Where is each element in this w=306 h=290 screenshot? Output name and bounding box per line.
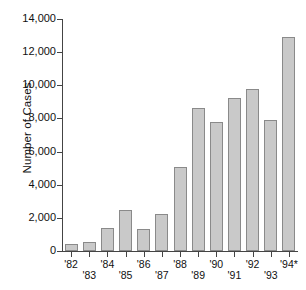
x-axis-tick	[234, 252, 235, 257]
y-axis-tick-label: 10,000	[4, 78, 56, 90]
x-axis-tick	[144, 252, 145, 257]
bar	[137, 229, 150, 251]
y-axis-tick	[57, 218, 62, 219]
y-axis-tick-label: 4,000	[4, 178, 56, 190]
y-axis-tick-label: 2,000	[4, 211, 56, 223]
plot-area	[62, 19, 298, 251]
y-axis-tick-label: 6,000	[4, 145, 56, 157]
bar	[246, 89, 259, 251]
bar	[83, 242, 96, 251]
y-axis-tick	[57, 52, 62, 53]
x-axis-tick	[126, 252, 127, 257]
x-axis-tick	[253, 252, 254, 257]
x-axis-ticks-and-labels: '82'83'84'85'86'87'88'89'90'91'92'93'94*	[62, 252, 298, 290]
x-axis-tick	[216, 252, 217, 257]
x-axis-tick	[198, 252, 199, 257]
x-axis-tick	[89, 252, 90, 257]
x-axis-tick-label: '87	[149, 269, 175, 281]
x-axis-tick	[180, 252, 181, 257]
y-axis-tick-label: 0	[4, 244, 56, 256]
x-axis-tick	[162, 252, 163, 257]
bar	[119, 210, 132, 251]
y-axis-tick-labels: 02,0004,0006,0008,00010,00012,00014,000	[0, 0, 56, 290]
y-axis-tick-label: 12,000	[4, 45, 56, 57]
x-axis-tick-label: '94*	[276, 258, 302, 270]
y-axis-tick	[57, 185, 62, 186]
bar	[228, 98, 241, 251]
x-axis-tick	[71, 252, 72, 257]
bar	[192, 108, 205, 251]
bar	[155, 214, 168, 251]
x-axis-tick	[107, 252, 108, 257]
x-axis-tick	[271, 252, 272, 257]
x-axis-tick-label: '89	[185, 269, 211, 281]
y-axis-tick	[57, 118, 62, 119]
bar-chart: Number of Cases 02,0004,0006,0008,00010,…	[0, 0, 306, 290]
x-axis-tick-label: '91	[221, 269, 247, 281]
bar	[101, 228, 114, 251]
x-axis-tick-label: '83	[76, 269, 102, 281]
y-axis-tick	[57, 19, 62, 20]
y-axis-tick	[57, 85, 62, 86]
x-axis-tick-label: '93	[258, 269, 284, 281]
bar	[282, 37, 295, 251]
y-axis-tick	[57, 152, 62, 153]
y-axis-tick-label: 14,000	[4, 12, 56, 24]
x-axis-tick	[289, 252, 290, 257]
bar	[210, 122, 223, 251]
y-axis-tick-label: 8,000	[4, 111, 56, 123]
bar	[65, 244, 78, 251]
bar	[174, 167, 187, 251]
x-axis-tick-label: '85	[113, 269, 139, 281]
bar	[264, 120, 277, 251]
